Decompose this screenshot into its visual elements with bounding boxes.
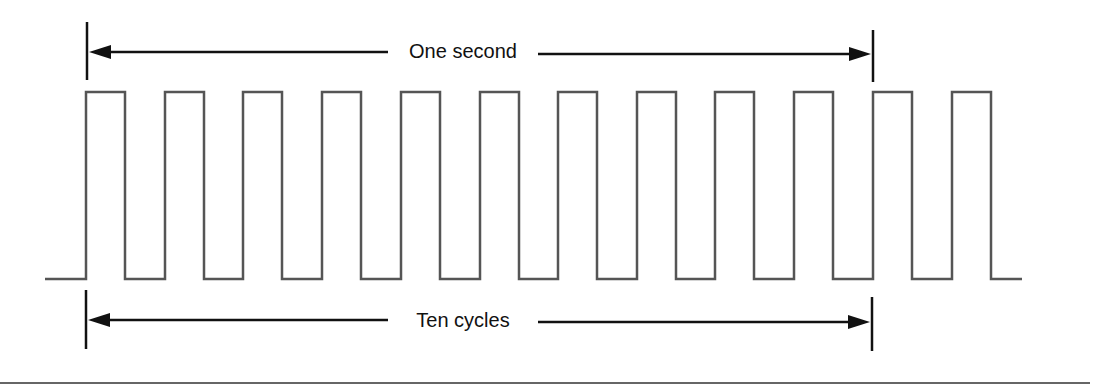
arrow-left-icon bbox=[88, 313, 110, 327]
arrow-right-icon bbox=[849, 47, 871, 61]
arrow-left-icon bbox=[89, 45, 111, 59]
ten-cycles-dimension: Ten cycles bbox=[86, 290, 872, 351]
square-wave bbox=[45, 92, 1022, 279]
one-second-dimension: One second bbox=[87, 22, 873, 82]
one-second-label: One second bbox=[409, 40, 517, 62]
square-wave-diagram: One second Ten cycles bbox=[0, 0, 1097, 387]
arrow-right-icon bbox=[848, 315, 870, 329]
ten-cycles-label: Ten cycles bbox=[416, 309, 509, 331]
square-wave-path bbox=[45, 92, 1022, 279]
